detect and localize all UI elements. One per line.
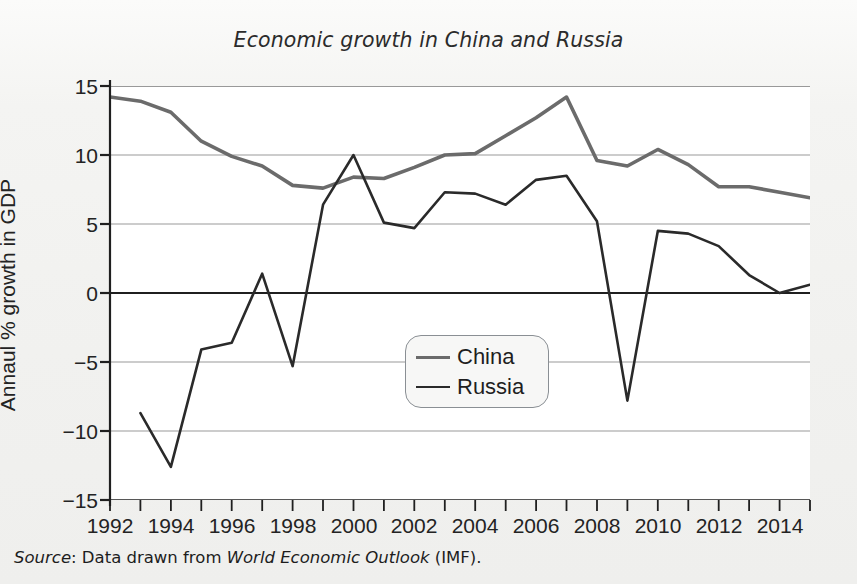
legend-item-russia[interactable]: Russia	[416, 372, 548, 402]
y-axis-label: Annaul % growth in GDP	[0, 150, 20, 440]
y-tick-label: 10	[40, 145, 98, 166]
source-note-text-2: (IMF).	[430, 548, 482, 567]
chart-figure: Economic growth in China and Russia Anna…	[0, 0, 857, 584]
source-note-publication: World Economic Outlook	[227, 548, 430, 567]
chart-legend[interactable]: China Russia	[405, 335, 549, 408]
x-tick-label: 2014	[740, 515, 820, 536]
series-line-russia	[140, 155, 810, 467]
y-tick-label: −15	[40, 490, 98, 511]
y-tick-label: −5	[40, 352, 98, 373]
y-tick-label: 15	[40, 76, 98, 97]
legend-label: Russia	[457, 376, 524, 398]
source-note: Source: Data drawn from World Economic O…	[14, 548, 482, 567]
legend-item-china[interactable]: China	[416, 342, 548, 372]
y-tick-label: −10	[40, 421, 98, 442]
x-axis-tick-labels: 1992 1994 1996 1998 2000 2002 2004 2006 …	[0, 515, 857, 545]
page-title: Economic growth in China and Russia	[0, 28, 857, 52]
y-tick-label: 5	[40, 214, 98, 235]
source-note-prefix: Source	[14, 548, 71, 567]
source-note-text-1: : Data drawn from	[71, 548, 227, 567]
chart-svg	[110, 86, 810, 500]
legend-line-swatch-china	[416, 356, 450, 359]
plot-area	[110, 86, 810, 500]
y-tick-label: 0	[40, 283, 98, 304]
series-line-china	[110, 97, 810, 198]
legend-line-swatch-russia	[416, 386, 450, 388]
legend-label: China	[457, 346, 514, 368]
y-axis-tick-labels: 15 10 5 0 −5 −10 −15	[36, 0, 98, 584]
